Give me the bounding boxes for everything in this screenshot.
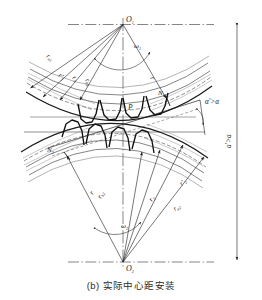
- label-omega2: ω2: [121, 222, 128, 231]
- label-center-O1: O1: [126, 15, 134, 25]
- gear-meshing-figure: O1 O2 ω1 ω2 ra1 r′1 r1 rb1 rb2 r2 r′2 ra…: [0, 0, 262, 300]
- arc-root-gear2: [28, 156, 203, 188]
- label-r2: r2: [147, 195, 157, 204]
- vector-to-N2: [67, 156, 123, 262]
- arc-addendum-gear1: [26, 86, 212, 121]
- vector-r2: [123, 150, 160, 262]
- label-rb2: rb2: [96, 190, 107, 200]
- vector-rprime1: [43, 25, 123, 98]
- figure-caption: (b) 实际中心距安装: [0, 278, 262, 292]
- caption-text: 实际中心距安装: [103, 280, 176, 291]
- vector-rb2: [123, 152, 142, 262]
- label-ra1: ra1: [45, 52, 56, 63]
- label-vector-N1-leg: r: [148, 75, 156, 81]
- vector-rb1: [80, 25, 123, 101]
- arc-root-gear1: [29, 56, 209, 88]
- label-center-O2: O2: [126, 264, 134, 274]
- label-rprime2: r′2: [178, 177, 189, 187]
- label-omega1: ω1: [134, 42, 141, 51]
- label-N1: N1: [157, 89, 165, 98]
- label-vector-N2-leg: r: [88, 190, 96, 196]
- label-ra2: ra2: [172, 202, 182, 213]
- diagram-canvas: O1 O2 ω1 ω2 ra1 r′1 r1 rb1 rb2 r2 r′2 ra…: [0, 0, 262, 300]
- label-pressure-angle: α′>α: [205, 98, 219, 106]
- vector-ra2: [123, 157, 204, 262]
- label-rb1: rb1: [83, 77, 94, 87]
- body-hatch-gear2-left: [23, 128, 92, 171]
- label-center-distance: a′>a: [225, 134, 233, 148]
- radius-vectors-gear2: [67, 145, 204, 262]
- gear-upper: [26, 56, 212, 121]
- caption-index: (b): [87, 280, 100, 291]
- label-pitch-point-P: P: [127, 103, 133, 112]
- label-N2: N2: [46, 146, 54, 155]
- arc-base-gear2: [29, 148, 202, 181]
- label-r1: r1: [70, 74, 80, 83]
- line-of-action-main: [48, 100, 200, 148]
- vector-r1: [60, 25, 123, 101]
